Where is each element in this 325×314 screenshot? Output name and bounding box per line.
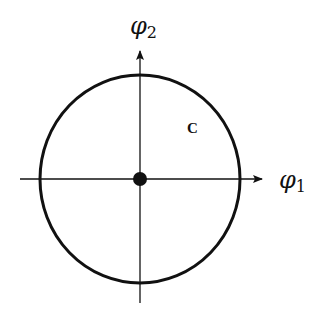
origin-dot — [133, 172, 147, 186]
y-axis-label: φ2 — [130, 12, 157, 42]
curve-label: C — [187, 120, 198, 136]
phase-diagram: φ2 φ1 C — [0, 0, 325, 314]
x-axis-label: φ1 — [279, 166, 306, 196]
